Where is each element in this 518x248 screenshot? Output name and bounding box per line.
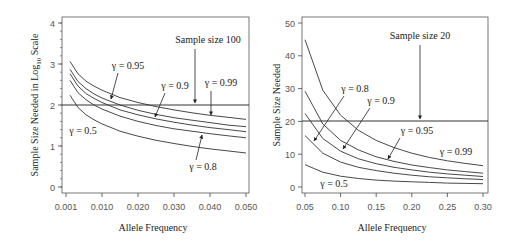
svg-text:50: 50 (285, 19, 295, 29)
left-x-label: Allele Frequency (118, 222, 187, 233)
right-ref-label: Sample size 20 (390, 30, 451, 41)
svg-text:0.10: 0.10 (332, 202, 350, 212)
right-arrow-g9 (343, 108, 370, 149)
right-label-g99: γ = 0.99 (439, 146, 473, 157)
right-y-axis: 01020304050 (285, 19, 302, 193)
svg-text:0.030: 0.030 (163, 202, 186, 212)
right-label-g8: γ = 0.8 (340, 83, 369, 94)
svg-text:0: 0 (50, 183, 55, 193)
svg-text:0.020: 0.020 (127, 202, 150, 212)
left-label-g9: γ = 0.9 (160, 80, 189, 91)
left-curves (70, 62, 246, 154)
left-label-g5: γ = 0.5 (68, 125, 97, 136)
svg-text:10: 10 (285, 150, 295, 160)
right-arrow-g8 (314, 96, 344, 141)
svg-text:40: 40 (285, 51, 295, 61)
left-y-axis: 01234 (50, 19, 62, 193)
svg-text:0.20: 0.20 (403, 202, 421, 212)
svg-text:0: 0 (290, 183, 295, 193)
right-x-axis: 0.050.100.150.200.250.30 (296, 193, 492, 212)
svg-text:1: 1 (50, 142, 55, 152)
svg-text:0.25: 0.25 (439, 202, 457, 212)
svg-text:0.050: 0.050 (235, 202, 258, 212)
right-x-label: Allele Frequency (357, 222, 426, 233)
left-label-g99: γ = 0.99 (204, 77, 238, 88)
svg-text:20: 20 (285, 117, 295, 127)
svg-text:0.001: 0.001 (55, 202, 78, 212)
svg-text:4: 4 (50, 19, 55, 29)
right-curves (305, 40, 483, 184)
right-chart: 01020304050 0.050.100.150.200.250.30 Sam… (271, 17, 492, 233)
svg-text:3: 3 (50, 60, 55, 70)
left-label-g95: γ = 0.95 (111, 60, 145, 71)
right-y-label: Sample Size Needed (271, 64, 282, 147)
svg-text:0.040: 0.040 (199, 202, 222, 212)
svg-text:2: 2 (50, 101, 55, 111)
left-y-label: Sample Size Needed in Log10 Scale (29, 33, 43, 176)
svg-text:0.30: 0.30 (474, 202, 492, 212)
svg-text:0.010: 0.010 (91, 202, 114, 212)
right-label-g95: γ = 0.95 (400, 125, 434, 136)
left-ref-label: Sample size 100 (175, 34, 241, 45)
svg-text:30: 30 (285, 84, 295, 94)
svg-text:0.05: 0.05 (296, 202, 314, 212)
figure: 01234 0.0010.0100.0200.0300.0400.050 Sam… (0, 0, 518, 248)
left-label-g8: γ = 0.8 (188, 161, 217, 172)
right-plot-frame (302, 17, 488, 193)
right-label-g5: γ = 0.5 (319, 178, 348, 189)
svg-text:0.15: 0.15 (367, 202, 385, 212)
right-label-g9: γ = 0.9 (366, 95, 395, 106)
left-x-axis: 0.0010.0100.0200.0300.0400.050 (55, 193, 258, 212)
left-chart: 01234 0.0010.0100.0200.0300.0400.050 Sam… (29, 17, 257, 233)
